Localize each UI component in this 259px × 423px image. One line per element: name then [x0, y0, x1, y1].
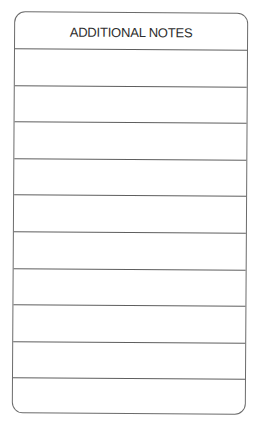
notes-title: ADDITIONAL NOTES — [15, 12, 247, 50]
note-line-2[interactable] — [15, 86, 247, 122]
note-line-9[interactable] — [13, 342, 245, 378]
note-line-1[interactable] — [15, 49, 247, 85]
note-line-8[interactable] — [13, 305, 245, 341]
notes-lines — [13, 48, 247, 413]
notes-card: ADDITIONAL NOTES — [12, 11, 248, 414]
note-line-6[interactable] — [14, 232, 246, 268]
note-line-7[interactable] — [13, 269, 245, 305]
note-line-3[interactable] — [14, 122, 246, 158]
note-line-10[interactable] — [13, 379, 245, 415]
note-line-4[interactable] — [14, 159, 246, 195]
note-line-5[interactable] — [14, 196, 246, 232]
